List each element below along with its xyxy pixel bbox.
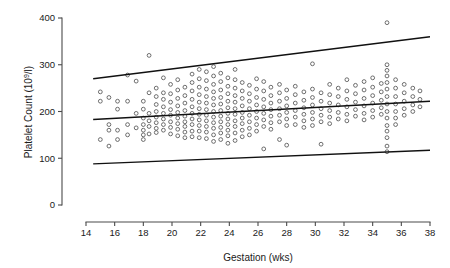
x-axis-tick-label: 14: [81, 227, 92, 238]
y-axis-tick-label: 400: [39, 12, 55, 23]
y-axis-tick-label: 300: [39, 59, 55, 70]
y-axis-tick-label: 0: [50, 199, 55, 210]
x-axis-tick-label: 24: [224, 227, 235, 238]
x-axis-tick-label: 26: [253, 227, 264, 238]
y-axis-tick-label: 100: [39, 153, 55, 164]
x-axis-tick-label: 16: [109, 227, 120, 238]
y-axis-tick-label: 200: [39, 106, 55, 117]
y-axis-title: Platelet Count (109/l): [23, 66, 35, 158]
x-axis-tick-label: 34: [367, 227, 378, 238]
x-axis-title: Gestation (wks): [223, 252, 292, 263]
x-axis-tick-label: 18: [138, 227, 149, 238]
x-axis-tick-label: 22: [195, 227, 206, 238]
chart-figure: 0100200300400 14161820222426283032343638…: [0, 0, 450, 268]
x-axis-tick-label: 38: [425, 227, 436, 238]
x-axis-tick-label: 28: [281, 227, 292, 238]
x-axis-tick-label: 36: [396, 227, 407, 238]
x-axis-tick-label: 30: [310, 227, 321, 238]
x-axis-tick-label: 20: [167, 227, 178, 238]
x-axis-tick-label: 32: [339, 227, 350, 238]
platelet-gestation-scatter-plot: 0100200300400 14161820222426283032343638…: [0, 0, 450, 268]
y-axis-title-group: Platelet Count (109/l): [23, 66, 35, 158]
